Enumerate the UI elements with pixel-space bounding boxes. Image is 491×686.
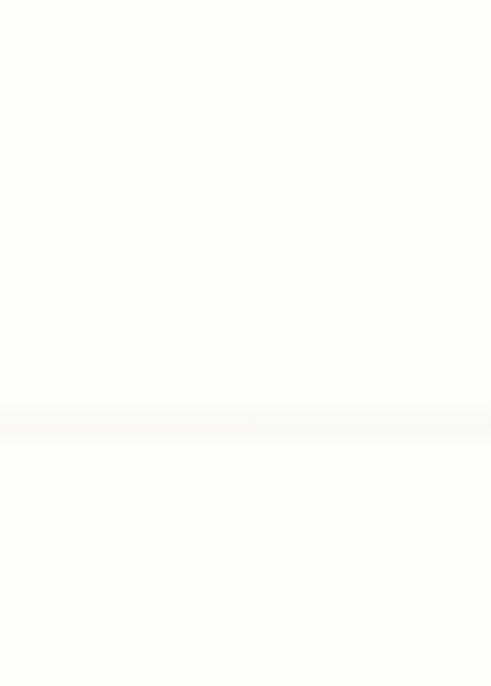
flowchart-canvas xyxy=(0,0,491,686)
flowchart-svg xyxy=(0,0,491,686)
